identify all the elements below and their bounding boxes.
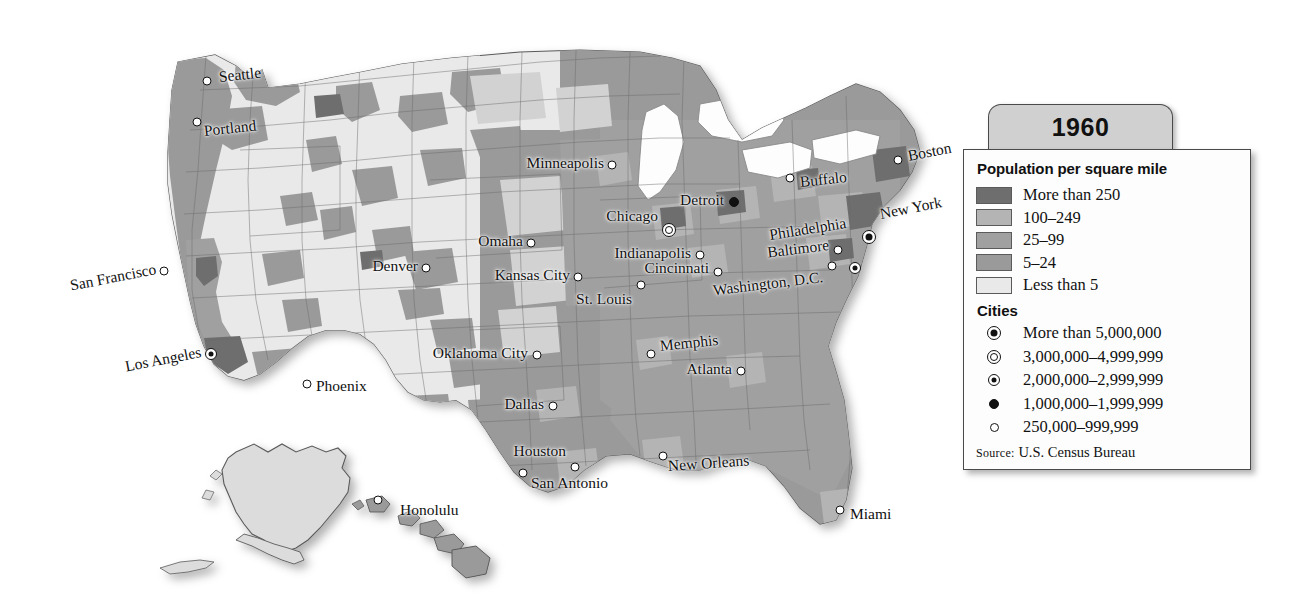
city-marker-dallas[interactable] xyxy=(549,402,558,411)
city-legend-row: 2,000,000–2,999,999 xyxy=(976,369,1238,393)
city-marker-houston[interactable] xyxy=(571,463,580,472)
city-label-detroit: Detroit xyxy=(680,191,724,209)
density-label: 25–99 xyxy=(1023,230,1064,250)
map-legend: 1960 Population per square mile More tha… xyxy=(963,104,1263,470)
city-label-cincinnati: Cincinnati xyxy=(644,259,709,277)
filled-circle-1m-icon xyxy=(976,399,1012,409)
city-label-oklahoma-city: Oklahoma City xyxy=(433,344,528,362)
legend-density-title: Population per square mile xyxy=(977,160,1238,177)
source-note: Source: U.S. Census Bureau xyxy=(976,444,1238,461)
city-marker-minneapolis[interactable] xyxy=(608,161,617,170)
city-marker-los-angeles[interactable] xyxy=(205,348,217,360)
city-marker-portland[interactable] xyxy=(193,118,202,127)
city-label-kansas-city: Kansas City xyxy=(495,266,570,284)
source-prefix: Source: xyxy=(976,446,1015,460)
alaska-inset xyxy=(160,444,350,574)
density-swatch xyxy=(976,232,1012,249)
density-label: 5–24 xyxy=(1023,253,1056,273)
city-marker-new-orleans[interactable] xyxy=(659,452,668,461)
city-legend-row: 1,000,000–1,999,999 xyxy=(976,392,1238,416)
city-label-atlanta: Atlanta xyxy=(686,360,732,378)
city-marker-buffalo[interactable] xyxy=(786,174,795,183)
city-label-houston: Houston xyxy=(513,442,566,460)
city-label-dallas: Dallas xyxy=(504,395,544,413)
city-marker-memphis[interactable] xyxy=(647,350,656,359)
city-marker-san-francisco[interactable] xyxy=(160,267,169,276)
city-label-phoenix: Phoenix xyxy=(316,377,367,395)
city-marker-boston[interactable] xyxy=(894,156,903,165)
city-marker-baltimore[interactable] xyxy=(834,246,843,255)
city-marker-seattle[interactable] xyxy=(203,77,212,86)
density-swatch xyxy=(976,277,1012,294)
city-marker-cincinnati[interactable] xyxy=(714,268,723,277)
city-marker-denver[interactable] xyxy=(422,264,431,273)
circle-dot-filled-5m-icon xyxy=(976,326,1012,340)
density-label: 100–249 xyxy=(1023,208,1081,228)
density-legend-row: 5–24 xyxy=(976,252,1238,275)
density-legend-row: More than 250 xyxy=(976,184,1238,207)
circle-small-dot-2m-icon xyxy=(976,374,1012,386)
city-marker-washington-d-c[interactable] xyxy=(828,262,837,271)
city-marker-kansas-city[interactable] xyxy=(574,273,583,282)
city-marker-detroit[interactable] xyxy=(729,197,739,207)
city-class-label: More than 5,000,000 xyxy=(1023,323,1161,343)
city-legend-row: More than 5,000,000 xyxy=(976,322,1238,346)
city-legend-row: 250,000–999,999 xyxy=(976,416,1238,440)
open-circle-250k-icon xyxy=(976,423,1012,432)
city-marker-san-antonio[interactable] xyxy=(519,469,528,478)
legend-panel: Population per square mile More than 250… xyxy=(963,149,1251,470)
map-page: SeattlePortlandSan FranciscoLos AngelesP… xyxy=(0,0,1299,596)
density-swatch xyxy=(976,209,1012,226)
city-class-label: 1,000,000–1,999,999 xyxy=(1023,394,1163,414)
density-legend-row: 100–249 xyxy=(976,207,1238,230)
city-class-list: More than 5,000,0003,000,000–4,999,9992,… xyxy=(976,322,1238,440)
city-legend-row: 3,000,000–4,999,999 xyxy=(976,345,1238,369)
city-label-minneapolis: Minneapolis xyxy=(527,154,605,172)
city-label-honolulu: Honolulu xyxy=(400,501,459,519)
density-legend-row: 25–99 xyxy=(976,229,1238,252)
year-label: 1960 xyxy=(1052,113,1110,142)
city-label-omaha: Omaha xyxy=(478,232,523,250)
city-marker-new-york[interactable] xyxy=(862,230,876,244)
city-marker-chicago[interactable] xyxy=(662,223,676,237)
density-legend-row: Less than 5 xyxy=(976,274,1238,297)
year-tab[interactable]: 1960 xyxy=(988,104,1173,150)
density-label: Less than 5 xyxy=(1023,275,1098,295)
us-population-density-map: SeattlePortlandSan FranciscoLos AngelesP… xyxy=(0,0,960,596)
source-text: U.S. Census Bureau xyxy=(1015,444,1135,460)
density-swatch xyxy=(976,254,1012,271)
city-class-label: 2,000,000–2,999,999 xyxy=(1023,370,1163,390)
city-class-label: 250,000–999,999 xyxy=(1023,417,1139,437)
city-class-label: 3,000,000–4,999,999 xyxy=(1023,347,1163,367)
city-marker-philadelphia[interactable] xyxy=(849,262,861,274)
city-marker-omaha[interactable] xyxy=(527,239,536,248)
legend-cities-title: Cities xyxy=(977,302,1238,319)
city-label-st-louis: St. Louis xyxy=(576,290,632,308)
city-marker-st-louis[interactable] xyxy=(637,281,646,290)
city-label-denver: Denver xyxy=(372,257,418,275)
city-label-miami: Miami xyxy=(850,505,891,523)
density-class-list: More than 250100–24925–995–24Less than 5 xyxy=(976,184,1238,297)
map-graphic xyxy=(0,0,960,596)
double-circle-3m-icon xyxy=(976,350,1012,364)
city-marker-oklahoma-city[interactable] xyxy=(533,351,542,360)
city-marker-atlanta[interactable] xyxy=(737,367,746,376)
city-marker-phoenix[interactable] xyxy=(303,380,312,389)
city-label-san-antonio: San Antonio xyxy=(531,474,608,492)
density-label: More than 250 xyxy=(1023,185,1120,205)
city-marker-miami[interactable] xyxy=(836,506,845,515)
city-label-chicago: Chicago xyxy=(606,207,658,225)
city-marker-honolulu[interactable] xyxy=(374,496,383,505)
density-swatch xyxy=(976,187,1012,204)
